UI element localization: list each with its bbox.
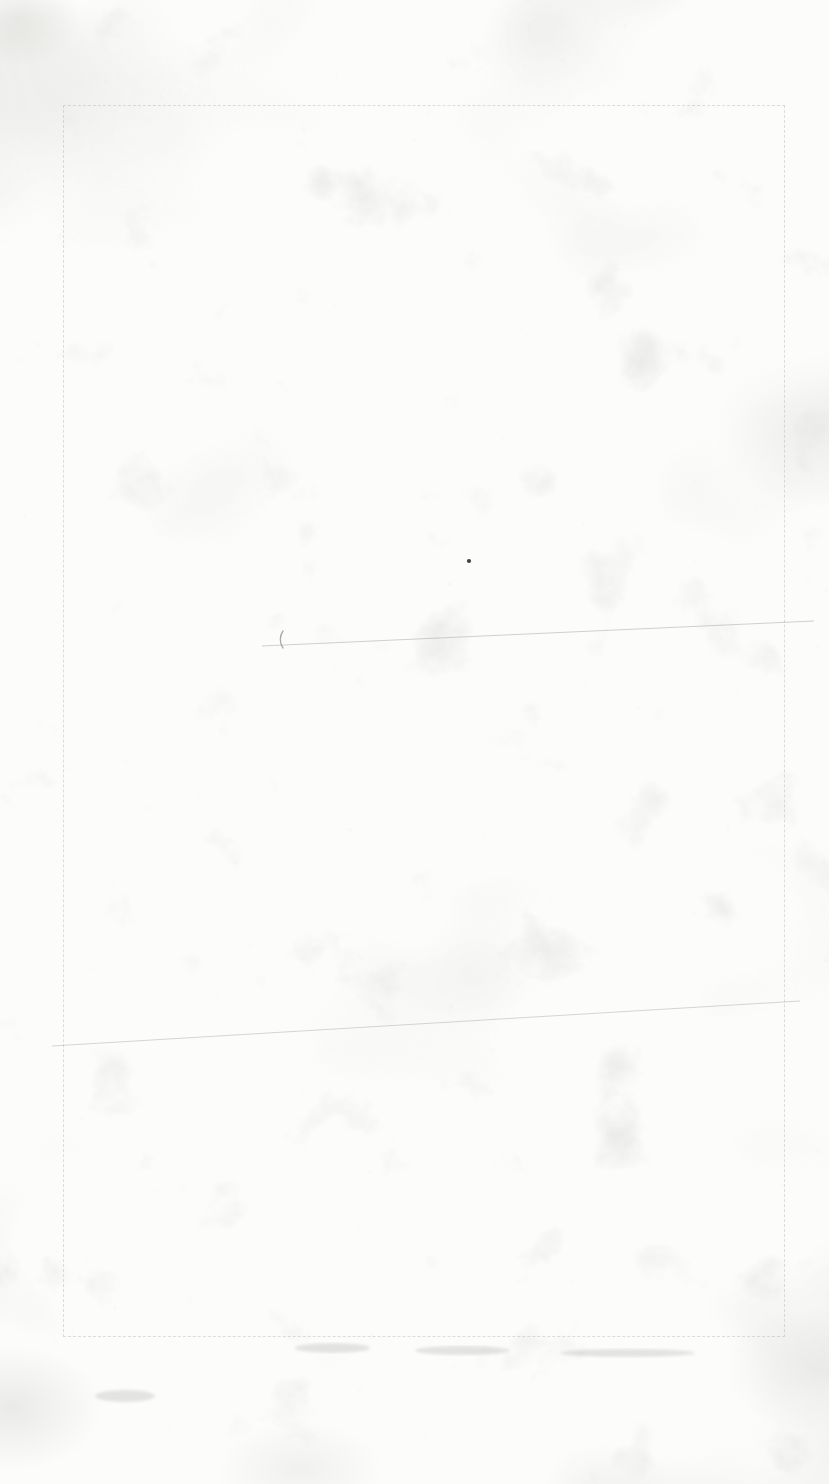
pencil-paren-mark [280, 631, 283, 648]
map-neatline [63, 105, 785, 1337]
faint-crease-line [52, 1001, 800, 1046]
ink-speck-mark [467, 559, 471, 563]
scanned-page [0, 0, 829, 1484]
bleedthrough-smudge [95, 1390, 155, 1402]
bleedthrough-smudge [415, 1346, 510, 1355]
faint-crease-line [262, 621, 814, 646]
pencil-marks-layer [0, 0, 829, 1484]
paper-texture [0, 0, 829, 1484]
bleedthrough-smudge [560, 1349, 695, 1357]
bleedthrough-smudge [295, 1343, 370, 1353]
